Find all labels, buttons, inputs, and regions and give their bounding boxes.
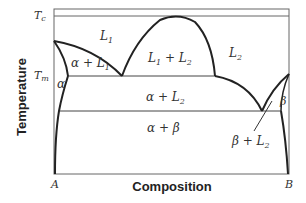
region-l1-l2: L1 + L2 <box>147 51 192 67</box>
miscibility-dome <box>122 16 215 76</box>
phase-diagram: Tc Tm L1 L1 + L2 L2 α + L1 α α + L2 α + … <box>0 0 306 203</box>
y-axis-label: Temperature <box>14 58 29 136</box>
x-axis-label: Composition <box>132 179 211 194</box>
region-l1: L1 <box>99 29 113 45</box>
label-tm: Tm <box>34 69 49 83</box>
region-alpha-l1: α + L1 <box>71 56 110 72</box>
region-alpha: α <box>57 77 65 91</box>
region-l2: L2 <box>228 46 242 62</box>
solidus-alpha <box>54 41 68 76</box>
label-tc: Tc <box>34 9 46 23</box>
solvus-beta <box>281 111 288 174</box>
region-beta: β <box>279 95 286 108</box>
region-alpha-beta: α + β <box>147 121 180 135</box>
label-a: A <box>50 178 59 191</box>
region-alpha-l2: α + L2 <box>146 90 185 106</box>
leader-line <box>254 101 272 131</box>
label-b: B <box>284 178 293 191</box>
region-beta-l2: β + L2 <box>231 134 270 150</box>
liquidus-l2 <box>215 76 262 111</box>
